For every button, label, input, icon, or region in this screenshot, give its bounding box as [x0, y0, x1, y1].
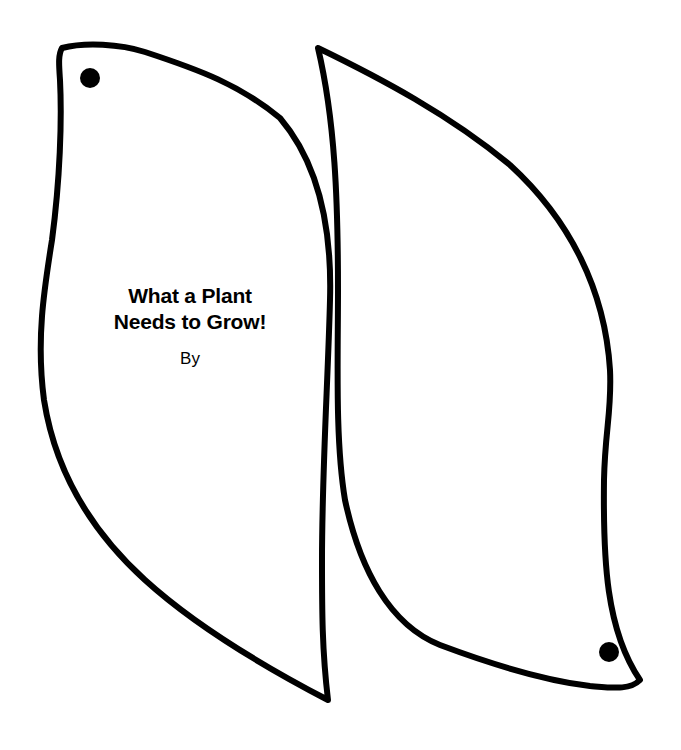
- back-leaf-outline: [318, 48, 640, 688]
- cover-title-line-2: Needs to Grow!: [90, 309, 290, 335]
- cover-punch-hole: [80, 68, 100, 88]
- cover-leaf-outline: [41, 45, 331, 700]
- cover-title-line-1: What a Plant: [90, 283, 290, 309]
- back-punch-hole: [599, 642, 619, 662]
- leaf-template-artwork: [0, 0, 681, 750]
- cover-byline: By: [90, 349, 290, 369]
- cover-title-block: What a Plant Needs to Grow! By: [90, 283, 290, 369]
